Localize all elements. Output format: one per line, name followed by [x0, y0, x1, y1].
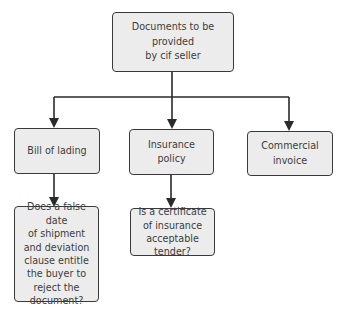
question-label: Is a certificate of insurance acceptable…	[135, 205, 210, 259]
node-commercial-invoice: Commercial invoice	[247, 131, 333, 176]
arrowhead-icon	[284, 121, 294, 131]
arrowhead-icon	[167, 119, 177, 129]
question-insurance: Is a certificate of insurance acceptable…	[130, 208, 215, 256]
question-label: Does a false date of shipment and deviat…	[19, 200, 94, 307]
node-label: Bill of lading	[27, 144, 86, 159]
node-bill-of-lading: Bill of lading	[14, 128, 100, 174]
node-label: Insurance policy	[134, 138, 209, 167]
arrowhead-icon	[49, 118, 59, 128]
node-label: Commercial invoice	[261, 139, 318, 168]
root-node: Documents to be provided by cif seller	[112, 12, 234, 72]
question-bill-of-lading: Does a false date of shipment and deviat…	[14, 206, 99, 302]
root-node-label: Documents to be provided by cif seller	[117, 20, 229, 64]
node-insurance-policy: Insurance policy	[129, 129, 214, 175]
